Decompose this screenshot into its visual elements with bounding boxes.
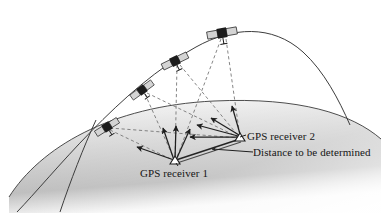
satellite-3[interactable] bbox=[161, 51, 192, 76]
satellite-panel-left bbox=[207, 30, 218, 39]
satellite-body bbox=[216, 27, 227, 39]
label-distance-to-be-determined: Distance to be determined bbox=[253, 146, 371, 158]
label-gps-receiver-1: GPS receiver 1 bbox=[140, 167, 208, 179]
gps-diagram-canvas bbox=[0, 0, 385, 213]
gps-diagram-figure: GPS receiver 2 Distance to be determined… bbox=[0, 0, 385, 213]
satellite-4[interactable] bbox=[206, 25, 238, 46]
label-gps-receiver-2: GPS receiver 2 bbox=[247, 130, 315, 142]
satellite-panel-right bbox=[226, 27, 237, 36]
